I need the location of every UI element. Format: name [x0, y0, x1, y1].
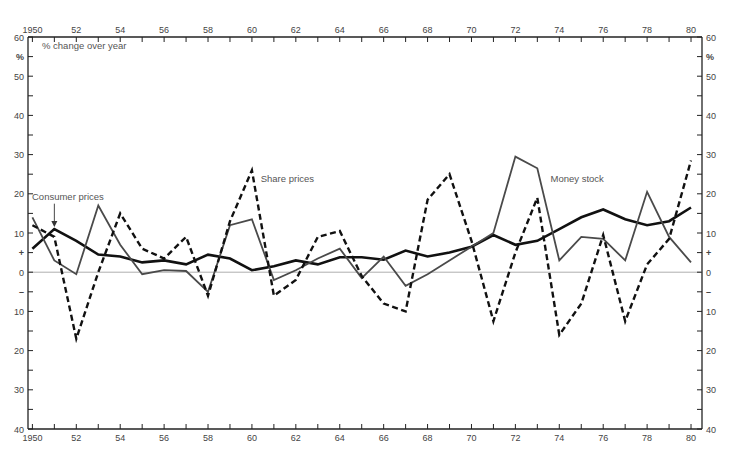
x-tick-label-bottom: 72 — [510, 433, 520, 443]
y-tick-label-right: 30 — [706, 150, 716, 160]
x-tick-label-top: 60 — [247, 25, 257, 35]
x-tick-label-bottom: 52 — [71, 433, 81, 443]
y-tick-label-right: 20 — [706, 189, 716, 199]
x-tick-label-top: 80 — [686, 25, 696, 35]
x-tick-label-bottom: 74 — [554, 433, 564, 443]
x-tick-label-bottom: 54 — [115, 433, 125, 443]
x-tick-label-bottom: 64 — [335, 433, 345, 443]
x-tick-label-top: 70 — [466, 25, 476, 35]
x-tick-label-top: 62 — [291, 25, 301, 35]
share-prices-line — [32, 161, 691, 339]
y-tick-label-right: 10 — [706, 229, 716, 239]
consumer-prices-label: Consumer prices — [32, 191, 104, 202]
y-tick-label-right: 40 — [706, 425, 716, 435]
x-tick-label-bottom: 66 — [379, 433, 389, 443]
y-tick-label-right: 10 — [706, 307, 716, 317]
y-tick-label-right: 60 — [706, 33, 716, 43]
x-tick-label-bottom: 62 — [291, 433, 301, 443]
y-tick-label-right: – — [706, 287, 711, 297]
y-tick-label-left: 30 — [14, 385, 24, 395]
x-tick-label-bottom: 76 — [598, 433, 608, 443]
x-tick-label-bottom: 58 — [203, 433, 213, 443]
annotations: % change over year Consumer prices Share… — [32, 40, 604, 227]
y-tick-label-left: 40 — [14, 111, 24, 121]
x-tick-label-top: 54 — [115, 25, 125, 35]
y-tick-label-left: 40 — [14, 425, 24, 435]
x-tick-label-top: 66 — [379, 25, 389, 35]
x-tick-label-top: 68 — [423, 25, 433, 35]
arrowhead-icon — [51, 221, 57, 227]
x-tick-label-bottom: 1950 — [22, 433, 42, 443]
chart-subtitle: % change over year — [42, 40, 127, 51]
y-tick-label-left: 20 — [14, 189, 24, 199]
x-tick-label-top: 64 — [335, 25, 345, 35]
y-tick-label-left: 50 — [14, 72, 24, 82]
y-tick-label-left: 10 — [14, 229, 24, 239]
line-chart: 1950195052525454565658586060626264646666… — [0, 0, 742, 464]
y-tick-label-left: 30 — [14, 150, 24, 160]
y-tick-label-left: 60 — [14, 33, 24, 43]
x-tick-label-top: 52 — [71, 25, 81, 35]
x-tick-label-bottom: 56 — [159, 433, 169, 443]
y-tick-label-left: + — [19, 248, 24, 258]
x-tick-label-bottom: 60 — [247, 433, 257, 443]
x-tick-label-bottom: 68 — [423, 433, 433, 443]
axes: 1950195052525454565658586060626264646666… — [14, 25, 716, 443]
x-tick-label-top: 58 — [203, 25, 213, 35]
y-tick-label-right: % — [706, 52, 714, 62]
y-tick-label-right: 40 — [706, 111, 716, 121]
y-tick-label-left: – — [19, 287, 24, 297]
x-tick-label-bottom: 80 — [686, 433, 696, 443]
y-tick-label-right: 30 — [706, 385, 716, 395]
x-tick-label-top: 56 — [159, 25, 169, 35]
x-tick-label-bottom: 70 — [466, 433, 476, 443]
x-tick-label-top: 76 — [598, 25, 608, 35]
y-tick-label-right: 20 — [706, 346, 716, 356]
y-tick-label-left: 0 — [19, 268, 24, 278]
y-tick-label-right: 0 — [706, 268, 711, 278]
y-tick-label-right: 50 — [706, 72, 716, 82]
y-tick-label-right: + — [706, 248, 711, 258]
x-tick-label-top: 78 — [642, 25, 652, 35]
x-tick-label-bottom: 78 — [642, 433, 652, 443]
money-stock-label: Money stock — [551, 173, 605, 184]
y-tick-label-left: 10 — [14, 307, 24, 317]
share-prices-label: Share prices — [261, 173, 315, 184]
x-tick-label-top: 74 — [554, 25, 564, 35]
y-tick-label-left: % — [16, 52, 24, 62]
x-tick-label-top: 72 — [510, 25, 520, 35]
x-tick-label-top: 1950 — [22, 25, 42, 35]
y-tick-label-left: 20 — [14, 346, 24, 356]
